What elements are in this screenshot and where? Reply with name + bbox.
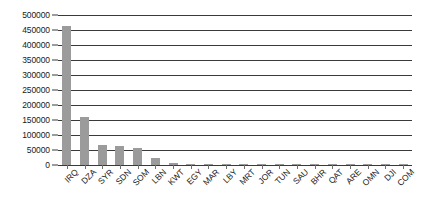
x-axis-tick-label: QAT [327,167,346,186]
y-axis-tick-label: 450000 [22,25,50,35]
bar [151,158,160,166]
x-axis-tick-label: EGY [184,167,204,187]
bar [133,148,142,165]
y-axis-tick-label: 400000 [22,40,50,50]
x-axis-tick-label: LBN [150,167,169,186]
y-axis-tick-label: 500000 [22,10,50,20]
x-axis-tick-label: DZA [79,167,98,186]
y-axis: 0500001000001500002000002500003000003500… [0,15,58,165]
x-axis-tick-label: TUN [273,167,292,186]
bar [98,145,107,165]
bar [62,26,71,166]
y-axis-tick-label: 100000 [22,130,50,140]
x-axis-tick-label: SDN [113,167,133,187]
bar [80,117,89,165]
x-axis-tick-label: JOR [256,167,275,186]
x-axis-labels: IRQDZASYRSDNSOMLBNKWTEGYMARLBYMRTJORTUNS… [58,167,428,213]
y-axis-tick-label: 300000 [22,70,50,80]
x-axis-tick-label: BHR [308,167,328,187]
y-axis-tick-label: 350000 [22,55,50,65]
x-axis-tick-label: COM [395,167,416,188]
x-axis-tick-label: LBY [221,167,239,185]
x-axis-tick-label: SYR [96,167,115,186]
x-axis-tick-label: MRT [237,167,257,187]
x-axis-tick-label: SOM [130,167,151,188]
y-axis-tick-label: 0 [45,160,50,170]
x-axis-tick-label: KWT [166,167,186,187]
y-axis-tick-label: 250000 [22,85,50,95]
x-axis-tick-label: ARE [344,167,363,186]
plot-area [58,15,412,165]
y-axis-tick-label: 150000 [22,115,50,125]
x-axis-tick-label: IRQ [62,167,80,185]
bars-series [58,15,412,165]
y-axis-tick-label: 200000 [22,100,50,110]
y-axis-tick-label: 50000 [27,145,50,155]
bar [115,146,124,165]
x-axis-tick-label: SAU [291,167,310,186]
x-axis-tick-label: OMN [360,167,381,188]
x-axis-tick-label: MAR [201,167,221,187]
bar-chart: 0500001000001500002000002500003000003500… [0,0,435,213]
